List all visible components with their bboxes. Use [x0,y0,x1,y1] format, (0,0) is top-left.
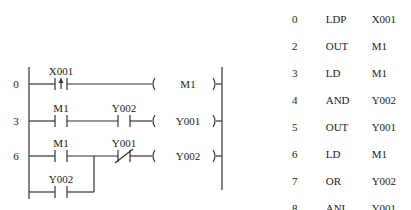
device-cell: M1 [372,59,411,86]
coil-left-paren-icon [153,115,155,127]
ladder-diagram: 0 X001 M1 3 M1 Y002 Y001 6 [0,0,280,210]
op-cell: OUT [326,113,372,140]
rising-edge-icon [59,78,64,90]
step-cell: 3 [292,59,326,86]
op-cell: OR [326,167,372,194]
contact-label: X001 [49,65,73,77]
step-cell: 8 [292,194,326,210]
rung-6: 6 M1 Y001 Y002 Y002 [13,137,222,198]
table-row: 0LDPX001 [292,5,411,32]
rung-0: 0 X001 M1 [13,65,222,90]
device-cell: Y001 [372,194,411,210]
coil-right-paren-icon [213,115,215,127]
op-cell: LD [326,140,372,167]
device-cell: M1 [372,32,411,59]
table-row: 4ANDY002 [292,86,411,113]
step-number: 0 [13,78,19,90]
coil-label: Y001 [176,115,200,127]
contact-label: M1 [53,102,68,114]
op-cell: AND [326,86,372,113]
branch-contact-label: Y002 [49,173,73,185]
op-cell: ANI [326,194,372,210]
instruction-list-table: 0LDPX001 2OUTM1 3LDM1 4ANDY002 5OUTY001 … [292,5,411,210]
device-cell: Y002 [372,86,411,113]
device-cell: X001 [372,5,411,32]
coil-label: Y002 [176,150,200,162]
device-cell: M1 [372,140,411,167]
coil-right-paren-icon [213,78,215,90]
table-row: 2OUTM1 [292,32,411,59]
device-cell: Y001 [372,113,411,140]
step-number: 6 [13,150,19,162]
coil-left-paren-icon [153,78,155,90]
step-cell: 2 [292,32,326,59]
coil-right-paren-icon [213,150,215,162]
contact-label: Y002 [112,102,136,114]
coil-left-paren-icon [153,150,155,162]
op-cell: LD [326,59,372,86]
rung-3: 3 M1 Y002 Y001 [13,102,222,127]
step-cell: 5 [292,113,326,140]
step-cell: 7 [292,167,326,194]
step-cell: 6 [292,140,326,167]
contact-label: Y001 [112,137,136,149]
step-cell: 0 [292,5,326,32]
coil-label: M1 [180,78,195,90]
table-row: 5OUTY001 [292,113,411,140]
table-row: 3LDM1 [292,59,411,86]
step-cell: 4 [292,86,326,113]
table-row: 6LDM1 [292,140,411,167]
table-row: 7ORY002 [292,167,411,194]
device-cell: Y002 [372,167,411,194]
table-row: 8ANIY001 [292,194,411,210]
contact-label: M1 [53,137,68,149]
op-cell: LDP [326,5,372,32]
op-cell: OUT [326,32,372,59]
step-number: 3 [13,115,19,127]
